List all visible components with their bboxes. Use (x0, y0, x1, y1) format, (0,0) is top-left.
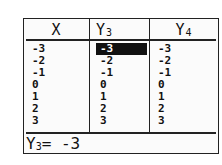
column-header-x: X (24, 21, 89, 39)
column-y3: -3 -2 -1 0 1 2 3 (96, 43, 147, 127)
header-sub: 3 (106, 27, 113, 38)
header-label: Y (175, 21, 185, 39)
column-divider (89, 19, 90, 133)
column-divider (149, 19, 150, 133)
status-expression: = -3 (42, 134, 81, 153)
header-label: X (51, 21, 61, 39)
header-label: Y (96, 21, 106, 39)
header-underline (26, 39, 216, 41)
column-x: -3 -2 -1 0 1 2 3 (28, 43, 86, 127)
header-sub: 4 (186, 27, 193, 38)
table-cell[interactable]: 3 (28, 115, 86, 127)
table-cell[interactable]: 3 (154, 115, 214, 127)
status-line: Y3= -3 (26, 135, 80, 155)
column-header-y3: Y3 (90, 21, 149, 39)
column-header-y4: Y4 (150, 21, 218, 39)
status-var: Y (26, 134, 36, 153)
column-y4: -3 -2 -1 0 1 2 3 (154, 43, 214, 127)
table-cell[interactable]: 3 (96, 115, 147, 127)
calculator-table-screen: X Y3 Y4 -3 -2 -1 0 1 2 3 -3 -2 -1 0 1 2 … (23, 18, 219, 154)
status-var-sub: 3 (36, 141, 42, 152)
